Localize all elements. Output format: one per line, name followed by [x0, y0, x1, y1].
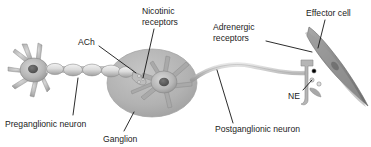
nucleus — [159, 78, 169, 87]
label-ach: ACh — [78, 37, 95, 47]
label-ne: NE — [288, 91, 300, 101]
leader-preganglionic — [73, 78, 78, 115]
label-ganglion: Ganglion — [103, 134, 138, 144]
label-adrenergic-receptors-line1: Adrenergic — [213, 22, 255, 32]
leader-postganglionic — [217, 70, 233, 123]
label-nicotinic-receptors-line2: receptors — [142, 17, 178, 27]
vesicle — [137, 74, 140, 77]
postganglionic-axon — [192, 65, 306, 80]
leader-adrenergic — [266, 41, 312, 52]
autonomic-synapse-diagram: Nicotinic receptors ACh Adrenergic recep… — [0, 0, 371, 147]
label-adrenergic-receptors-line2: receptors — [213, 33, 249, 43]
label-effector-cell: Effector cell — [306, 8, 351, 18]
varicosity-terminal — [301, 60, 321, 105]
vesicle — [312, 69, 316, 73]
vesicle — [138, 81, 141, 84]
label-postganglionic-neuron: Postganglionic neuron — [215, 124, 300, 134]
leader-ganglion — [124, 112, 134, 131]
vesicle — [317, 82, 321, 86]
preganglionic-neuron-soma — [8, 43, 50, 97]
diagram-canvas: Nicotinic receptors ACh Adrenergic recep… — [0, 0, 371, 147]
nucleus — [28, 65, 38, 73]
effector-cell — [305, 27, 368, 107]
label-preganglionic-neuron: Preganglionic neuron — [5, 119, 86, 129]
label-nicotinic-receptors-line1: Nicotinic — [142, 6, 175, 16]
